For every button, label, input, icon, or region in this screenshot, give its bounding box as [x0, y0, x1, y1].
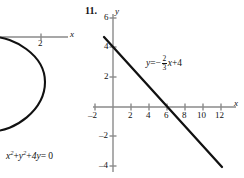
eq-fraction-denominator: 3 [162, 64, 167, 72]
y-tick-label-neg4: –4 [99, 161, 108, 170]
left-figure-equation: x2+y2+4y= 0 [6, 150, 53, 162]
eq-minus-sign: − [156, 58, 161, 68]
y-tick-label-6: 6 [104, 13, 109, 22]
problem-number: 11. [85, 6, 97, 16]
x-tick-label-neg2: –2 [88, 111, 97, 120]
left-x-tick-label-2: 2 [38, 39, 43, 48]
x-tick-label-4: 4 [146, 111, 151, 120]
x-tick-label-12: 12 [215, 111, 224, 120]
eq-term-4y: 4y [32, 151, 41, 161]
right-axes [93, 14, 236, 172]
eq-equals-zero: = 0 [41, 151, 53, 161]
left-circle-curve [0, 37, 45, 131]
eq-constant-4: 4 [177, 58, 182, 68]
x-tick-label-10: 10 [197, 111, 206, 120]
x-tick-label-6: 6 [164, 111, 169, 120]
y-tick-label-4: 4 [104, 42, 109, 51]
left-x-axis-label: x [70, 30, 74, 39]
y-tick-label-2: 2 [104, 72, 109, 81]
figure-page: 2 x x2+y2+4y= 0 11. y x 6 4 2 –2 –4 –2 2… [0, 0, 244, 178]
right-x-axis-label: x [234, 99, 238, 108]
eq-fraction-two-thirds: 23 [162, 55, 167, 71]
x-tick-label-2: 2 [128, 111, 133, 120]
right-y-axis-label: y [115, 7, 119, 16]
line-equation-annotation: y=−23x+4 [146, 55, 182, 71]
y-tick-label-neg2: –2 [99, 131, 108, 140]
x-tick-label-8: 8 [182, 111, 187, 120]
